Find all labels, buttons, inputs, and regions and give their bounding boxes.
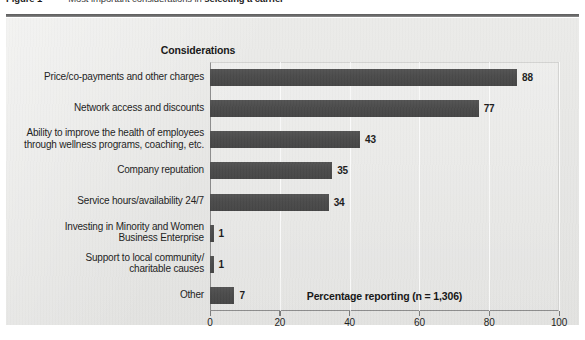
gridline-100	[559, 62, 560, 311]
figure-container: Figure 1Most important considerations in…	[0, 0, 585, 340]
x-tick-label-40: 40	[344, 317, 355, 328]
x-tick-label-60: 60	[414, 317, 425, 328]
category-label: Company reputation	[18, 164, 204, 176]
bar-value-label: 34	[334, 197, 345, 208]
x-tick-100	[559, 311, 560, 316]
bar-value-label: 1	[219, 228, 224, 239]
x-tick-label-20: 20	[274, 317, 285, 328]
header-rule	[6, 14, 579, 17]
category-label: Ability to improve the health of employe…	[18, 127, 204, 150]
bar-row[interactable]: 1	[210, 225, 559, 242]
category-label: Price/co-payments and other charges	[18, 71, 204, 83]
figure-caption-emphasis: selecting a carrier	[204, 0, 283, 4]
bar-value-label: 77	[484, 103, 495, 114]
chart-panel: Considerations Price/co-payments and oth…	[6, 18, 579, 325]
bar-row[interactable]: 1	[210, 256, 559, 273]
column-header-considerations: Considerations	[157, 44, 239, 56]
x-tick-80	[489, 311, 490, 316]
bar-value-label: 43	[365, 134, 376, 145]
bar[interactable]	[210, 162, 332, 179]
bar-value-label: 1	[219, 259, 224, 270]
category-label: Other	[18, 289, 204, 301]
category-label: Network access and discounts	[18, 102, 204, 114]
bar[interactable]	[210, 225, 214, 242]
x-tick-20	[279, 311, 280, 316]
x-tick-label-100: 100	[551, 317, 567, 328]
figure-caption-lead: Most important considerations in	[68, 0, 204, 4]
plot-area: 8877433534117 020406080100	[210, 62, 559, 311]
x-tick-40	[349, 311, 350, 316]
bar[interactable]	[210, 69, 517, 86]
bar[interactable]	[210, 256, 214, 273]
category-label: Service hours/availability 24/7	[18, 195, 204, 207]
x-axis-title: Percentage reporting (n = 1,306)	[210, 290, 559, 302]
category-label: Investing in Minority and Women Business…	[18, 221, 204, 244]
figure-number: Figure 1	[6, 0, 42, 4]
x-tick-0	[210, 311, 211, 316]
bar-row[interactable]: 43	[210, 131, 559, 148]
x-tick-label-80: 80	[484, 317, 495, 328]
bar-row[interactable]: 35	[210, 162, 559, 179]
bar[interactable]	[210, 100, 479, 117]
bar-series: 8877433534117	[210, 62, 559, 311]
bar-row[interactable]: 77	[210, 100, 559, 117]
bar[interactable]	[210, 194, 329, 211]
bar[interactable]	[210, 131, 360, 148]
bar-value-label: 35	[337, 165, 348, 176]
bar-row[interactable]: 88	[210, 69, 559, 86]
bar-value-label: 88	[522, 72, 533, 83]
category-label: Support to local community/ charitable c…	[18, 252, 204, 275]
figure-caption: Figure 1Most important considerations in…	[6, 0, 566, 7]
x-tick-60	[419, 311, 420, 316]
x-tick-label-0: 0	[207, 317, 212, 328]
bar-row[interactable]: 34	[210, 194, 559, 211]
